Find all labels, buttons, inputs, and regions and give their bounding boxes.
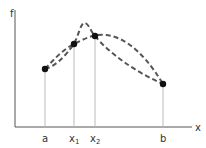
y-axis-label: f bbox=[10, 8, 14, 19]
point-a bbox=[42, 66, 48, 72]
curve-peaked bbox=[45, 23, 163, 84]
tick-label-a: a bbox=[42, 133, 48, 144]
tick-label-b: b bbox=[160, 133, 166, 144]
tick-label-x2: x2 bbox=[90, 133, 100, 146]
x-axis-label: x bbox=[195, 122, 201, 133]
point-x1 bbox=[71, 41, 77, 47]
point-b bbox=[160, 81, 166, 87]
tick-label-x1: x1 bbox=[69, 133, 79, 146]
curve-smooth bbox=[45, 35, 163, 84]
point-x2 bbox=[92, 33, 98, 39]
function-plot: f x a x1 x2 b bbox=[0, 0, 206, 148]
